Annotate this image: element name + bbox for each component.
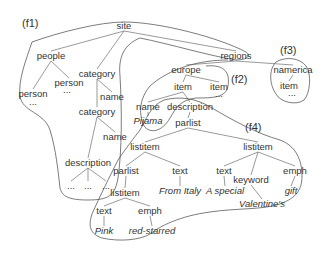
tree-node-from-italy: From Italy (159, 185, 202, 196)
tree-node-name2: name (103, 131, 127, 142)
tree-node-red-starred: red-starred (129, 225, 176, 236)
tree-nodes: sitepeopleperson...person...categoryname… (18, 20, 313, 236)
tree-node-listitem3: listitem (110, 187, 140, 198)
tree-node-pijama: Pijama (133, 115, 162, 126)
tree-node-gift: gift (285, 185, 298, 196)
tree-node-name3: name (136, 101, 160, 112)
tree-node-item-na-dots: ... (288, 87, 296, 98)
tree-node-desc-dots3: ... (102, 180, 110, 191)
tree-node-people: people (37, 50, 66, 61)
tree-node-desc-dots2: ... (84, 180, 92, 191)
tree-node-text1: text (172, 165, 188, 176)
tree-node-description2: description (167, 101, 213, 112)
tree-node-listitem1: listitem (130, 141, 160, 152)
tree-edge (51, 31, 124, 51)
tree-node-person2-dots: ... (63, 84, 71, 95)
tree-edge (51, 61, 69, 78)
tree-node-regions: regions (220, 50, 251, 61)
tree-node-item-eu2-dots: ... (215, 88, 223, 99)
tree-node-desc-dots1: ... (67, 180, 75, 191)
tree-node-valentines: Valentine's (239, 198, 285, 209)
tree-node-description1: description (65, 157, 111, 168)
tree-edge (33, 61, 51, 89)
tree-edge (97, 117, 115, 132)
xml-tree-diagram: (f1)(f2)(f3)(f4) sitepeopleperson...pers… (0, 0, 321, 256)
tree-node-europe: europe (171, 64, 201, 75)
tree-node-parlist1: parlist (175, 117, 201, 128)
tree-node-text3: text (96, 205, 112, 216)
fragment-label-f3: (f3) (280, 44, 297, 56)
tree-edge (126, 152, 145, 166)
tree-edge (224, 152, 258, 166)
tree-node-emph2: emph (138, 205, 162, 216)
tree-node-item-eu1: item (174, 81, 192, 92)
tree-node-parlist2: parlist (113, 165, 139, 176)
tree-node-listitem2: listitem (243, 141, 273, 152)
tree-node-category2: category (79, 106, 116, 117)
tree-node-text2: text (216, 165, 232, 176)
tree-node-name1: name (100, 91, 124, 102)
tree-node-a-special: A special (205, 185, 245, 196)
fragment-label-f1: (f1) (22, 17, 39, 29)
tree-edge (251, 152, 258, 175)
tree-node-category1: category (79, 68, 116, 79)
fragment-label-f2: (f2) (231, 73, 248, 85)
tree-edge (88, 117, 97, 158)
tree-edge (145, 152, 180, 166)
tree-node-emph1: emph (283, 165, 307, 176)
tree-edge (251, 185, 262, 199)
tree-edge (145, 128, 188, 142)
fragment-label-f4: (f4) (245, 121, 262, 133)
tree-node-site: site (117, 20, 132, 31)
tree-node-keyword: keyword (233, 174, 268, 185)
tree-node-pink: Pink (95, 225, 115, 236)
tree-node-namerica: namerica (273, 64, 313, 75)
tree-edge (258, 152, 295, 166)
tree-node-person1-dots: ... (29, 96, 37, 107)
